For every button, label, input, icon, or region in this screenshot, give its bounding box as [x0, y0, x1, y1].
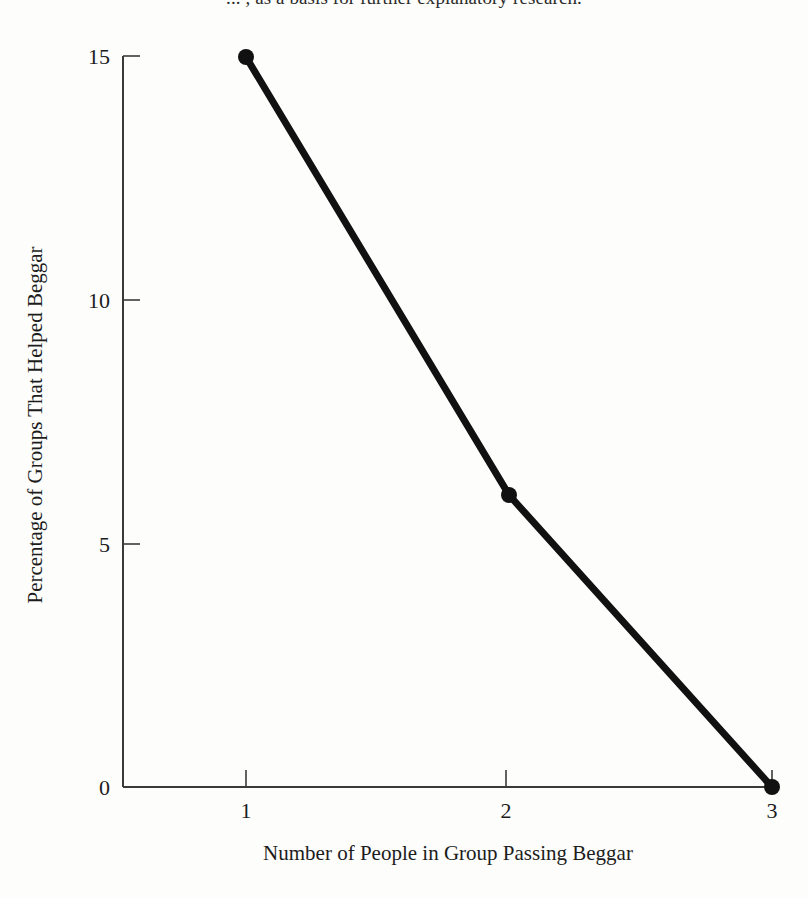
chart-page: ... , as a basis for further explanatory…: [0, 0, 808, 898]
y-tick-label-15: 15: [50, 46, 110, 68]
y-tick-label-0: 0: [50, 777, 110, 799]
y-axis-title: Percentage of Groups That Helped Beggar: [22, 45, 48, 805]
x-tick-label-2: 2: [476, 800, 536, 822]
data-point-3: [764, 779, 780, 795]
y-tick-label-10: 10: [50, 290, 110, 312]
chart-canvas: [0, 0, 808, 898]
x-axis-title: Number of People in Group Passing Beggar: [123, 840, 773, 866]
data-point-2: [501, 487, 517, 503]
data-point-1: [238, 49, 254, 65]
line-chart: 15 10 5 0 1 2 3 Number of People in Grou…: [0, 0, 808, 898]
y-tick-label-5: 5: [50, 534, 110, 556]
data-line: [246, 57, 772, 787]
y-axis-title-container: Percentage of Groups That Helped Beggar: [0, 0, 46, 898]
x-tick-label-1: 1: [216, 800, 276, 822]
x-tick-label-3: 3: [742, 800, 802, 822]
